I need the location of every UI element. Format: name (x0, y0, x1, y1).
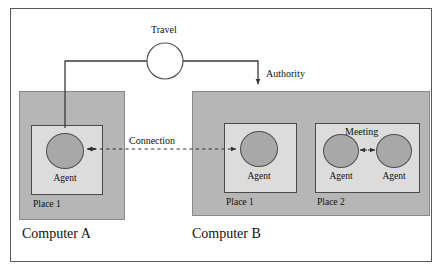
agent-b1 (240, 131, 278, 167)
computer-b-place2-label: Place 2 (317, 198, 345, 208)
agent-b1-label: Agent (240, 172, 278, 182)
computer-b-label: Computer B (192, 227, 261, 241)
agent-b3-label: Agent (375, 172, 413, 182)
agent-a1 (46, 133, 84, 169)
connection-label: Connection (129, 136, 175, 146)
travel-label: Travel (151, 25, 177, 35)
agent-b2-label: Agent (322, 172, 360, 182)
agent-b2 (323, 134, 359, 168)
diagram-canvas: Agent Place 1 Computer A Agent Place 1 A… (0, 0, 442, 274)
agent-a1-label: Agent (46, 174, 84, 184)
authority-label: Authority (266, 69, 305, 79)
computer-b-place1-label: Place 1 (226, 198, 254, 208)
agent-b3 (376, 134, 412, 168)
meeting-label: Meeting (345, 127, 378, 137)
computer-a-label: Computer A (22, 227, 91, 241)
computer-a-place1-label: Place 1 (33, 200, 61, 210)
